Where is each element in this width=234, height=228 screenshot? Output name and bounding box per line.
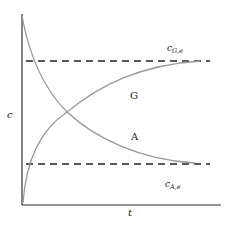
curve-g-label: G [130, 90, 138, 101]
cae-label-sub: A,e [169, 183, 181, 191]
curve-a [22, 16, 195, 163]
y-axis-label: c [7, 109, 13, 120]
x-axis-label: t [128, 207, 133, 218]
cge-label-sub: G,e [172, 47, 183, 55]
chart-figure: c t G A cG,e cA,e [0, 0, 234, 228]
cae-label: cA,e [165, 179, 181, 191]
curve-a-label: A [130, 131, 139, 142]
curve-g [23, 61, 200, 203]
cge-label: cG,e [167, 43, 183, 55]
chart-svg: c t G A cG,e cA,e [0, 0, 234, 228]
